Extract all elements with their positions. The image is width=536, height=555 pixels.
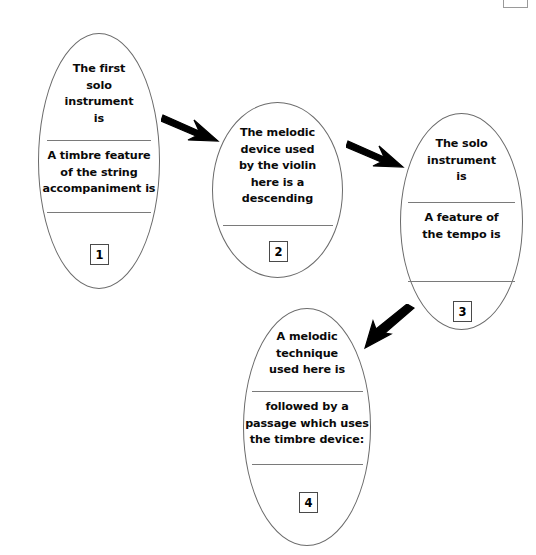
node-3-number: 3	[458, 305, 466, 319]
node-4-prompt-top: A melodic technique used here is	[244, 329, 370, 379]
diagram-canvas: The first solo instrument is A timbre fe…	[0, 0, 536, 555]
node-2-answer-line-1[interactable]	[223, 225, 333, 226]
node-2-prompt-top: The melodic device used by the violin he…	[213, 125, 342, 208]
node-4-answer-line-2[interactable]	[252, 464, 363, 465]
node-4-prompt-bottom: followed by a passage which uses the tim…	[244, 399, 370, 449]
node-4-number: 4	[304, 496, 312, 510]
node-3-answer-line-2[interactable]	[408, 281, 515, 282]
crop-marker-box	[503, 0, 528, 8]
node-3-prompt-bottom: A feature of the tempo is	[401, 210, 522, 243]
flow-node-1[interactable]: The first solo instrument is A timbre fe…	[38, 33, 160, 289]
node-2-number-box: 2	[269, 241, 288, 262]
node-3-answer-line-1[interactable]	[408, 202, 515, 203]
flow-node-4[interactable]: A melodic technique used here is followe…	[243, 308, 371, 546]
node-1-number: 1	[95, 248, 103, 262]
node-3-number-box: 3	[453, 301, 472, 322]
flow-node-3[interactable]: The solo instrument is A feature of the …	[400, 113, 523, 330]
node-3-prompt-top: The solo instrument is	[401, 136, 522, 186]
node-2-number: 2	[274, 245, 282, 259]
arrow-2-to-3-icon	[346, 134, 408, 178]
node-4-number-box: 4	[299, 492, 318, 513]
node-1-prompt-top: The first solo instrument is	[39, 61, 159, 127]
node-1-number-box: 1	[90, 244, 109, 265]
node-1-prompt-bottom: A timbre feature of the string accompani…	[39, 148, 159, 198]
node-1-answer-line-1[interactable]	[47, 140, 151, 141]
node-1-answer-line-2[interactable]	[47, 212, 151, 213]
flow-node-2[interactable]: The melodic device used by the violin he…	[212, 102, 343, 278]
node-4-answer-line-1[interactable]	[252, 391, 363, 392]
